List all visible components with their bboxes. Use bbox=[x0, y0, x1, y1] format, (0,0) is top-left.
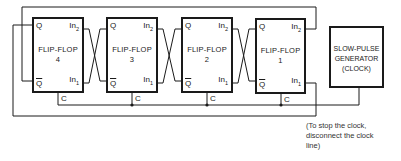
q-output-label: Q bbox=[36, 21, 42, 30]
q-output-label: Q bbox=[185, 21, 191, 30]
q-output-label: Q bbox=[110, 21, 116, 30]
slow-pulse-generator: SLOW-PULSE GENERATOR (CLOCK) bbox=[329, 26, 384, 88]
flip-flop-number: 3 bbox=[108, 55, 156, 65]
in2-label: In2 bbox=[143, 21, 153, 34]
flip-flop-number: 1 bbox=[257, 56, 304, 66]
q-bar-output-label: Q bbox=[110, 79, 116, 88]
clock-input-label: C bbox=[135, 94, 141, 103]
clock-input-label: C bbox=[61, 94, 67, 103]
clock-input-label: C bbox=[284, 95, 290, 104]
in2-label: In2 bbox=[291, 22, 301, 35]
flip-flop-title: FLIP-FLOP bbox=[183, 45, 231, 55]
flip-flop-title: FLIP-FLOP bbox=[108, 45, 156, 55]
in1-label: In1 bbox=[218, 75, 228, 88]
clock-input-label: C bbox=[210, 94, 216, 103]
in1-label: In1 bbox=[143, 75, 153, 88]
flip-flop-2: Q Q In2 In1 FLIP-FLOP 2 bbox=[181, 17, 233, 93]
clock-stop-note: (To stop the clock, disconnect the clock… bbox=[306, 121, 374, 151]
q-bar-output-label: Q bbox=[36, 79, 42, 88]
q-bar-output-label: Q bbox=[185, 79, 191, 88]
in1-label: In1 bbox=[69, 75, 79, 88]
flip-flop-title: FLIP-FLOP bbox=[34, 45, 82, 55]
in1-label: In1 bbox=[291, 76, 301, 89]
flip-flop-1: Q Q In2 In1 FLIP-FLOP 1 bbox=[255, 18, 306, 94]
flip-flop-number: 2 bbox=[183, 55, 231, 65]
flip-flop-4: Q Q In2 In1 FLIP-FLOP 4 bbox=[32, 17, 84, 93]
in2-label: In2 bbox=[218, 21, 228, 34]
in2-label: In2 bbox=[69, 21, 79, 34]
flip-flop-3: Q Q In2 In1 FLIP-FLOP 3 bbox=[106, 17, 158, 93]
q-output-label: Q bbox=[259, 22, 265, 31]
flip-flop-title: FLIP-FLOP bbox=[257, 46, 304, 56]
q-bar-output-label: Q bbox=[259, 80, 265, 89]
flip-flop-number: 4 bbox=[34, 55, 82, 65]
generator-label: SLOW-PULSE GENERATOR (CLOCK) bbox=[331, 44, 382, 74]
